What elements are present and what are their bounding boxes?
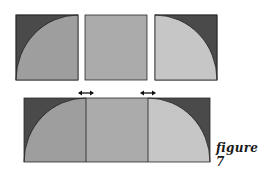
square-right-quarter-circle xyxy=(155,15,217,80)
square-left-quarter-circle xyxy=(16,15,78,80)
segment-middle xyxy=(86,98,148,162)
double-arrow-icon xyxy=(78,91,94,96)
square-plain xyxy=(85,15,147,80)
joined-rectangle xyxy=(24,98,210,162)
figure-caption: figure 7 xyxy=(216,141,270,169)
double-arrow-icon xyxy=(140,91,156,96)
